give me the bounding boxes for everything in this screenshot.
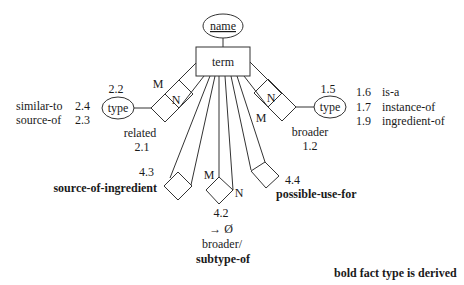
er-diagram: name term M N related 2.1 type 2.2 simil… [0,0,464,285]
term-entity-label: term [212,55,235,69]
subtype-name: subtype-of [196,252,251,266]
left-value-1-code: 2.3 [75,113,90,127]
broader-link-n [250,62,281,93]
subtype-prefix: broader/ [202,237,243,251]
related-code: 2.1 [135,140,150,154]
subtype-link-n [225,76,233,190]
right-value-2-name: ingredient-of [382,114,445,128]
right-value-0-name: is-a [382,85,400,99]
soi-role-box [164,172,192,200]
right-value-1-code: 1.7 [356,100,371,114]
left-type-code: 2.2 [109,82,124,96]
subtype-code: 4.2 [214,206,229,220]
broader-name: broader [292,125,329,139]
legend-note: bold fact type is derived [334,266,457,280]
left-value-0-name: similar-to [16,99,62,113]
puf-name: possible-use-for [276,187,357,201]
right-type-label: type [320,100,341,114]
subtype-m-label: M [204,168,215,182]
left-value-1-name: source-of [16,113,61,127]
broader-n-label: N [267,91,276,105]
left-type-label: type [108,101,129,115]
soi-name: source-of-ingredient [53,181,157,195]
related-n-label: N [172,93,181,107]
right-type-code: 1.5 [321,82,336,96]
broader-code: 1.2 [303,139,318,153]
related-m-label: M [153,77,164,91]
left-value-0-code: 2.4 [75,99,90,113]
related-name: related [124,126,157,140]
soi-code: 4.3 [139,165,154,179]
subtype-n-label: N [235,186,244,200]
subtype-arrow: → Ø [209,222,233,236]
puf-role-box [251,162,279,188]
right-value-2-code: 1.9 [356,114,371,128]
broader-m-label: M [256,111,267,125]
puf-code: 4.4 [285,173,300,187]
right-value-1-name: instance-of [382,100,435,114]
puf-link-1 [231,76,251,170]
name-attribute-label: name [210,19,236,33]
right-value-0-code: 1.6 [356,85,371,99]
